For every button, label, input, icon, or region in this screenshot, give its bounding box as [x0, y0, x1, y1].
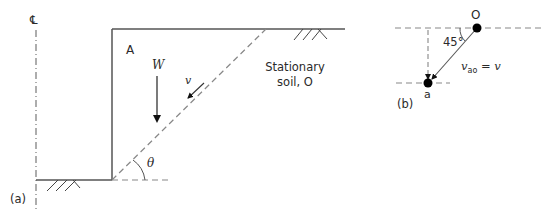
point-a-label: a: [424, 88, 431, 101]
ground-hatch-icon: [47, 180, 80, 191]
angle-45-label: 45°: [443, 35, 463, 49]
velocity-vector-label: vao = v: [461, 59, 501, 75]
slip-plane: [112, 29, 266, 180]
point-o-dot: [473, 24, 482, 33]
ground-hatch-icon: [294, 29, 327, 40]
point-a-dot: [424, 79, 433, 88]
centerline-symbol: ℄: [29, 13, 38, 27]
block-label: A: [126, 43, 135, 57]
velocity-equals: = v: [477, 59, 501, 73]
diagram-canvas: ℄ θ A W v: [0, 0, 552, 212]
panel-b: O a 45° vao = v (b): [395, 8, 541, 111]
velocity-subscript: ao: [468, 66, 478, 75]
panel-a: ℄ θ A W v: [10, 13, 345, 212]
theta-arc: [133, 160, 145, 180]
velocity-label: v: [185, 74, 192, 87]
theta-label: θ: [147, 156, 155, 170]
panel-a-caption: (a): [10, 192, 26, 206]
point-o-label: O: [471, 8, 480, 22]
weight-label: W: [152, 58, 166, 72]
soil-label-line2: soil, O: [277, 75, 313, 89]
panel-b-caption: (b): [397, 97, 413, 111]
soil-label-line1: Stationary: [265, 60, 325, 74]
